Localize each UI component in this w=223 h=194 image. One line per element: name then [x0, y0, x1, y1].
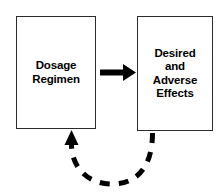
- feedback-dashed-arc-icon: [65, 130, 153, 184]
- node-dosage-regimen-label: Dosage Regimen: [30, 59, 82, 86]
- diagram-canvas: Dosage Regimen Desired and Adverse Effec…: [0, 0, 223, 194]
- forward-arrow-icon: [100, 64, 136, 81]
- node-desired-adverse-effects-label: Desired and Adverse Effects: [151, 47, 199, 101]
- node-dosage-regimen: Dosage Regimen: [16, 16, 96, 129]
- node-desired-adverse-effects: Desired and Adverse Effects: [137, 16, 213, 131]
